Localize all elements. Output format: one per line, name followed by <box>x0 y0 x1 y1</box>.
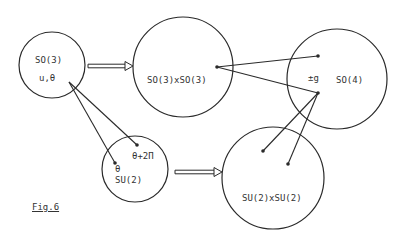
mapping-line <box>217 67 318 93</box>
group-points <box>113 54 320 166</box>
su2xsu2-circle <box>222 127 324 229</box>
so4-pt-bottom <box>316 91 320 95</box>
so4-label: SO(4) <box>336 76 363 85</box>
group-lines <box>69 56 318 164</box>
su2-sublabel: θ <box>115 165 120 174</box>
su2-extra-label: θ+2Π <box>132 152 154 161</box>
arrowhead-icon <box>125 62 133 71</box>
mapping-line <box>288 93 318 164</box>
arrowhead-icon <box>214 168 222 177</box>
mapping-line <box>69 82 115 163</box>
diagram-svg <box>0 0 405 239</box>
so3-label: SO(3) <box>35 56 62 65</box>
su2-circle <box>102 136 168 202</box>
so4-sublabel: ±g <box>308 74 319 83</box>
double-arrow-shaft <box>175 170 214 174</box>
su2xsu2-label: SU(2)xSU(2) <box>242 194 302 203</box>
su2-pt-theta2pi <box>135 143 139 147</box>
so3xso3-label: SO(3)xSO(3) <box>147 76 207 85</box>
diagram-canvas: SO(3) u,θ SO(3)xSO(3) ±g SO(4) θ+2Π θ SU… <box>0 0 405 239</box>
double-arrow-shaft <box>88 64 125 68</box>
so4-pt-top <box>316 54 320 58</box>
su2xsu2-pt-a <box>261 149 265 153</box>
su2-label: SU(2) <box>115 176 142 185</box>
mapping-line <box>69 82 137 145</box>
group-circles <box>19 17 387 229</box>
so3xso3-pt <box>215 65 219 69</box>
su2xsu2-pt-b <box>286 162 290 166</box>
so3-sublabel: u,θ <box>39 74 55 83</box>
figure-caption: Fig.6 <box>32 203 59 212</box>
